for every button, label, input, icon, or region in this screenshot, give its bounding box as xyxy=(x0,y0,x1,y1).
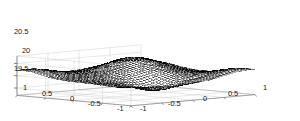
x-axis-tick-label-0: -1 xyxy=(140,105,146,113)
x-axis-tick-label-2: 0 xyxy=(203,95,207,103)
z-axis-tick-label-0: 20.5 xyxy=(14,28,28,36)
x-axis-tick-label-3: 0.5 xyxy=(228,90,238,98)
matlab-figure-window: 20.52019.510.50-0.5-1-1-0.500.51 xyxy=(0,0,300,121)
y-axis-tick-label-0: 1 xyxy=(23,84,27,92)
x-axis-tick-label-4: 1 xyxy=(263,84,267,92)
surface-plot-canvas xyxy=(0,0,300,121)
mesh-surface-layer xyxy=(17,57,255,90)
x-axis-tick-label-1: -0.5 xyxy=(168,100,181,108)
y-axis-tick-label-2: 0 xyxy=(70,95,74,103)
z-axis-tick-label-2: 19.5 xyxy=(14,65,28,73)
z-axis-tick-label-1: 20 xyxy=(22,47,30,55)
y-axis-tick-label-1: 0.5 xyxy=(42,90,52,98)
y-axis-tick-label-4: -1 xyxy=(117,105,123,113)
y-axis-tick-label-3: -0.5 xyxy=(88,100,101,108)
